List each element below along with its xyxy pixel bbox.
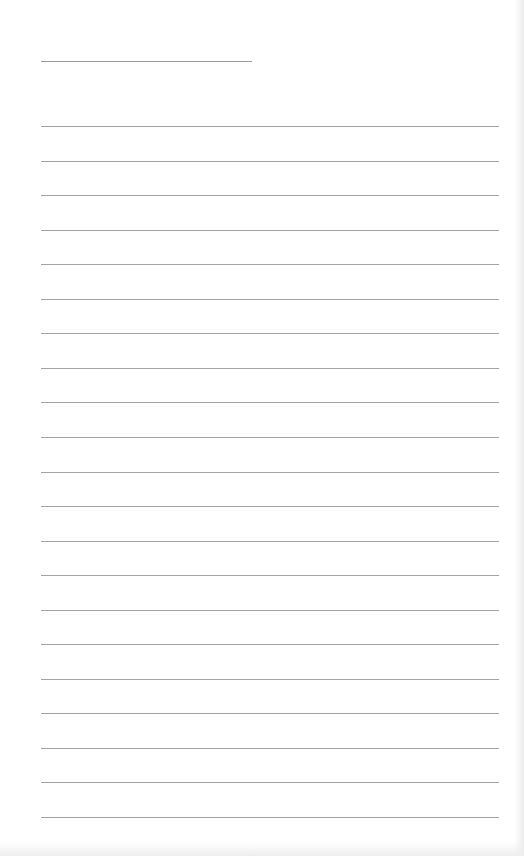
ruled-line bbox=[41, 817, 499, 818]
ruled-line bbox=[41, 472, 499, 473]
page-bottom-shadow bbox=[0, 842, 524, 856]
ruled-line bbox=[41, 679, 499, 680]
ruled-line bbox=[41, 264, 499, 265]
ruled-line bbox=[41, 195, 499, 196]
ruled-line bbox=[41, 368, 499, 369]
ruled-line bbox=[41, 748, 499, 749]
ruled-line bbox=[41, 782, 499, 783]
ruled-line bbox=[41, 610, 499, 611]
ruled-line bbox=[41, 713, 499, 714]
ruled-line bbox=[41, 575, 499, 576]
page-edge-shadow bbox=[514, 0, 524, 856]
ruled-line bbox=[41, 299, 499, 300]
title-line bbox=[41, 61, 252, 62]
lined-paper-page bbox=[0, 0, 524, 856]
ruled-line bbox=[41, 230, 499, 231]
ruled-line bbox=[41, 541, 499, 542]
ruled-line bbox=[41, 126, 499, 127]
ruled-line bbox=[41, 644, 499, 645]
ruled-line bbox=[41, 161, 499, 162]
ruled-line bbox=[41, 333, 499, 334]
ruled-line bbox=[41, 437, 499, 438]
ruled-line bbox=[41, 506, 499, 507]
ruled-line bbox=[41, 402, 499, 403]
